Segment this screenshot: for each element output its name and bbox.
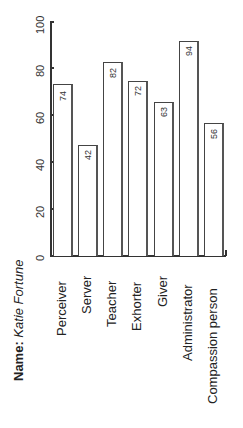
- category-label: Giver: [155, 276, 170, 307]
- y-tick-label: 20: [34, 206, 46, 218]
- bar-administrator: [179, 41, 199, 256]
- category-label: Compassion person: [205, 288, 220, 404]
- category-label: Teacher: [104, 281, 119, 327]
- bar-server: [78, 145, 98, 256]
- y-tick-80: [50, 67, 54, 69]
- bar-value-label: 72: [133, 86, 143, 96]
- category-label: Exhorter: [129, 282, 144, 331]
- bar-compassion-person: [204, 123, 224, 256]
- category-label: Administrator: [180, 284, 195, 361]
- bar-value-label: 63: [159, 107, 169, 117]
- bar-giver: [154, 102, 174, 256]
- y-tick-100: [50, 21, 54, 23]
- bar-exhorter: [128, 81, 148, 256]
- y-tick-label: 60: [34, 112, 46, 124]
- y-tick-label: 0: [34, 255, 46, 261]
- bar-teacher: [103, 62, 123, 256]
- bar-perceiver: [53, 84, 73, 256]
- category-label: Perceiver: [54, 281, 69, 336]
- category-label: Server: [79, 276, 94, 314]
- y-tick-label: 40: [34, 159, 46, 171]
- name-label: Name:: [11, 341, 26, 381]
- name-caption: Name: Katie Fortune: [11, 260, 26, 381]
- bar-value-label: 82: [108, 68, 118, 78]
- bar-value-label: 74: [58, 91, 68, 101]
- y-tick-label: 100: [34, 16, 46, 34]
- x-axis-end-tick: [225, 250, 227, 256]
- name-value: Katie Fortune: [11, 260, 26, 338]
- bar-value-label: 56: [209, 129, 219, 139]
- y-tick-label: 80: [34, 65, 46, 77]
- bar-value-label: 42: [83, 150, 93, 160]
- bar-value-label: 94: [184, 46, 194, 56]
- y-axis: [50, 21, 52, 256]
